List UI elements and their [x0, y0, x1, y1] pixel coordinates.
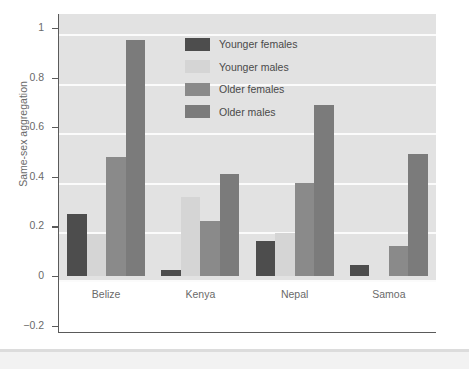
- y-axis-tick: [52, 326, 58, 327]
- y-axis-title: Same-sex aggregation: [17, 49, 29, 219]
- bar-samoa-older-females: [389, 246, 409, 276]
- y-axis-tick: [52, 177, 58, 178]
- y-axis-tick: [52, 78, 58, 79]
- bar-kenya-younger-males: [181, 197, 201, 276]
- legend-swatch-icon: [185, 60, 210, 73]
- scan-bottom-band: [0, 352, 469, 369]
- legend-item-younger-females: Younger females: [185, 33, 305, 56]
- x-axis-tick-label-kenya: Kenya: [153, 288, 247, 300]
- y-axis-tick-label: 1: [0, 22, 44, 32]
- bar-kenya-older-females: [200, 221, 220, 276]
- bar-kenya-older-males: [220, 174, 240, 276]
- legend-label: Older males: [219, 106, 276, 118]
- legend-label: Younger females: [219, 38, 297, 50]
- bar-belize-older-males: [126, 40, 146, 276]
- y-axis-tick: [52, 276, 58, 277]
- y-axis-tick: [52, 28, 58, 29]
- bar-nepal-older-males: [314, 105, 334, 276]
- x-axis-tick-label-nepal: Nepal: [248, 288, 342, 300]
- legend-item-younger-males: Younger males: [185, 56, 305, 79]
- legend-label: Older females: [219, 83, 284, 95]
- x-axis-line: [58, 332, 436, 333]
- legend-item-older-females: Older females: [185, 78, 305, 101]
- legend-swatch-icon: [185, 38, 210, 51]
- gridline: [59, 133, 436, 135]
- bar-nepal-older-females: [295, 183, 315, 276]
- x-axis-tick-label-belize: Belize: [59, 288, 153, 300]
- y-axis-tick-label: −0.2: [0, 320, 44, 330]
- bar-belize-younger-females: [67, 214, 87, 276]
- gridline: [59, 280, 436, 282]
- legend-swatch-icon: [185, 105, 210, 118]
- chart-figure: 10.80.60.40.20−0.2 BelizeKenyaNepalSamoa…: [0, 0, 469, 369]
- bar-belize-younger-males: [87, 234, 107, 276]
- x-axis-tick-label-samoa: Samoa: [342, 288, 436, 300]
- chart-legend: Younger femalesYounger malesOlder female…: [185, 33, 305, 123]
- bar-samoa-younger-females: [350, 265, 370, 276]
- bar-nepal-younger-females: [256, 241, 276, 276]
- y-axis-tick: [52, 127, 58, 128]
- bar-kenya-younger-females: [161, 270, 181, 276]
- bar-nepal-younger-males: [275, 233, 295, 276]
- y-axis-tick: [52, 226, 58, 227]
- legend-item-older-males: Older males: [185, 101, 305, 124]
- legend-swatch-icon: [185, 83, 210, 96]
- legend-label: Younger males: [219, 61, 289, 73]
- bar-samoa-older-males: [408, 154, 428, 276]
- y-axis-line: [58, 14, 59, 333]
- y-axis-tick-label: 0.2: [0, 220, 44, 230]
- y-axis-tick-label: 0: [0, 270, 44, 280]
- bar-belize-older-females: [106, 157, 126, 276]
